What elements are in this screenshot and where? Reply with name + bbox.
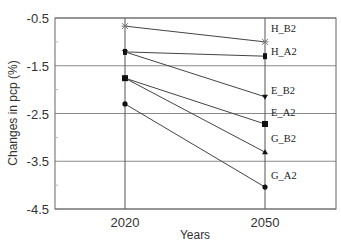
circle-marker-icon xyxy=(262,184,267,189)
series-e-b2: E_B2 xyxy=(122,50,295,100)
x-axis-title: Years xyxy=(180,228,210,242)
x-tick-label: 2020 xyxy=(111,215,140,230)
series-lines: H_B2H_A2E_B2E_A2G_B2G_A2 xyxy=(122,23,297,190)
square-marker-icon xyxy=(262,121,268,127)
series-label: H_B2 xyxy=(271,23,296,34)
line-chart: -0.5-1.5-2.5-3.5-4.5 20202050 H_B2H_A2E_… xyxy=(0,0,341,243)
y-tick-label: -4.5 xyxy=(27,202,49,217)
series-label: E_A2 xyxy=(271,107,296,118)
y-tick-label: -2.5 xyxy=(27,107,49,122)
series-h-b2: H_B2 xyxy=(122,23,297,45)
y-tick-label: -3.5 xyxy=(27,154,49,169)
circle-marker-icon xyxy=(122,101,127,106)
triangle-up-marker-icon xyxy=(262,149,268,154)
x-tick-label: 2050 xyxy=(251,215,280,230)
y-axis-ticks: -0.5-1.5-2.5-3.5-4.5 xyxy=(27,11,58,217)
triangle-down-marker-icon xyxy=(262,95,268,100)
series-label: E_B2 xyxy=(271,85,295,96)
series-label: G_B2 xyxy=(271,133,296,144)
series-g-b2: G_B2 xyxy=(122,75,296,154)
series-e-a2: E_A2 xyxy=(122,75,296,127)
series-label: H_A2 xyxy=(271,46,297,57)
y-tick-label: -0.5 xyxy=(27,11,49,26)
y-axis-title: Changes in pcp (%) xyxy=(6,60,20,165)
series-h-a2: H_A2 xyxy=(123,46,297,59)
bar-marker-icon xyxy=(263,53,267,59)
y-tick-label: -1.5 xyxy=(27,59,49,74)
series-label: G_A2 xyxy=(271,170,297,181)
